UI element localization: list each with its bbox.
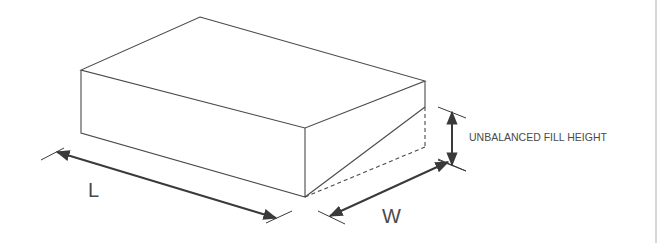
fill-block	[81, 17, 425, 197]
hidden-edge-bottom	[305, 147, 425, 197]
width-extension-left	[318, 211, 345, 224]
fill-height-dimension: UNBALANCED FILL HEIGHT	[438, 107, 607, 171]
fill-height-label: UNBALANCED FILL HEIGHT	[469, 131, 607, 143]
length-label: L	[88, 179, 99, 201]
block-top-face	[81, 17, 425, 128]
block-front-face	[81, 70, 305, 197]
width-label: W	[382, 205, 401, 227]
fill-block-diagram: L W UNBALANCED FILL HEIGHT	[0, 0, 658, 243]
length-dimension: L	[41, 148, 292, 223]
